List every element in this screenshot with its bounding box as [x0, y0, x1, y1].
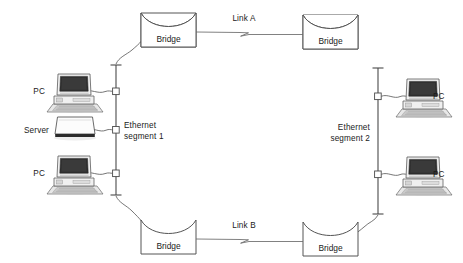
link-b: Link B: [196, 221, 303, 243]
segment-1-tap-pc-top: [113, 88, 120, 95]
wire-pc-top-right: [381, 96, 407, 98]
ethernet-segment-1-label: Ethernet segment 1: [124, 121, 164, 141]
link-b-label: Link B: [232, 221, 256, 230]
trunk-segment1-to-bridge-top-left: [116, 41, 142, 64]
wire-pc-bottom-right: [381, 174, 407, 176]
trunk-segment2-to-bridge-bottom-right: [356, 215, 379, 234]
pc-top-left-label: PC: [33, 87, 45, 96]
bridge-bottom-right-label: Bridge: [318, 243, 343, 253]
link-a-label: Link A: [232, 14, 256, 23]
bridge-bottom-right[interactable]: Bridge: [303, 222, 358, 256]
pc-bottom-left-label: PC: [33, 169, 45, 178]
segment-1-tap-pc-bottom: [113, 170, 120, 177]
trunk-segment1-to-bridge-bottom-left: [116, 196, 142, 221]
link-b-break-icon: [240, 240, 249, 244]
segment-2-label-line2: segment 2: [330, 134, 370, 143]
bridge-bottom-left[interactable]: Bridge: [141, 220, 196, 254]
bridge-top-left[interactable]: Bridge: [141, 13, 196, 47]
bridge-top-left-label: Bridge: [156, 34, 181, 44]
segment-1-label-line2: segment 1: [124, 132, 164, 141]
bridge-top-right[interactable]: Bridge: [303, 15, 358, 49]
segment-1-label-line1: Ethernet: [124, 121, 157, 130]
pc-bottom-left[interactable]: [47, 156, 103, 194]
pc-bottom-right-label: PC: [433, 170, 445, 179]
segment-2-tap-pc-bottom: [375, 171, 382, 178]
ethernet-segment-2-label: Ethernet segment 2: [330, 123, 370, 143]
link-a: Link A: [196, 14, 303, 36]
bridge-top-right-label: Bridge: [318, 36, 343, 46]
pc-top-right-label: PC: [433, 92, 445, 101]
bridge-bottom-left-label: Bridge: [156, 241, 181, 251]
segment-1-tap-server: [113, 127, 120, 134]
link-a-break-icon: [240, 33, 249, 37]
network-diagram: Bridge Bridge Bridge Bridge Link A: [0, 0, 463, 263]
ethernet-segment-2: [373, 68, 384, 214]
segment-2-label-line1: Ethernet: [338, 123, 371, 132]
pc-top-left[interactable]: [47, 74, 103, 112]
segment-2-tap-pc-top: [375, 93, 382, 100]
server[interactable]: [54, 117, 96, 140]
server-label: Server: [24, 126, 49, 135]
diagram-canvas: Bridge Bridge Bridge Bridge Link A: [0, 0, 463, 263]
